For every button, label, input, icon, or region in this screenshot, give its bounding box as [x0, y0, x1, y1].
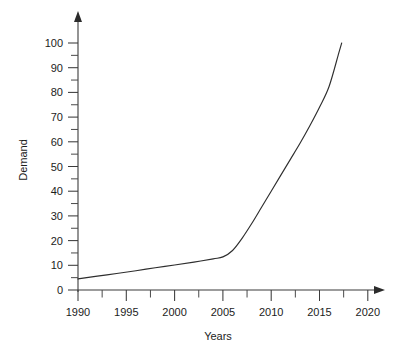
x-tick-label-1990: 1990: [66, 306, 90, 318]
x-tick-label-1995: 1995: [114, 306, 138, 318]
y-tick-label-100: 100: [45, 37, 63, 49]
x-tick-label-2015: 2015: [307, 306, 331, 318]
y-tick-label-0: 0: [57, 284, 63, 296]
chart-canvas: 100 90 80 70 60 50 40 30 20 10 0: [0, 0, 406, 357]
y-tick-label-80: 80: [51, 86, 63, 98]
y-tick-label-70: 70: [51, 111, 63, 123]
x-tick-label-2020: 2020: [356, 306, 380, 318]
y-tick-label-30: 30: [51, 210, 63, 222]
x-tick-label-2005: 2005: [211, 306, 235, 318]
x-tick-label-2000: 2000: [162, 306, 186, 318]
y-tick-label-20: 20: [51, 235, 63, 247]
y-tick-label-40: 40: [51, 185, 63, 197]
chart-background: [0, 0, 406, 357]
y-tick-label-50: 50: [51, 161, 63, 173]
y-tick-label-90: 90: [51, 62, 63, 74]
line-chart: 100 90 80 70 60 50 40 30 20 10 0: [0, 0, 406, 357]
y-tick-label-60: 60: [51, 136, 63, 148]
y-tick-label-10: 10: [51, 259, 63, 271]
y-axis-title: Demand: [17, 139, 29, 181]
x-axis-title: Years: [204, 330, 232, 342]
x-tick-label-2010: 2010: [259, 306, 283, 318]
